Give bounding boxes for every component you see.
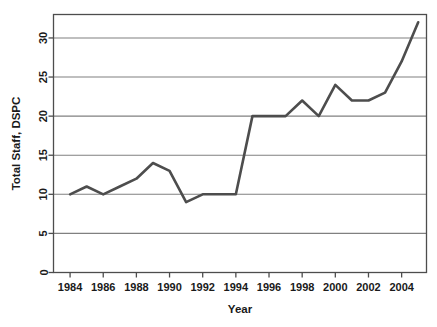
y-tick-label-15: 15 (38, 149, 50, 161)
y-tick-label-0: 0 (38, 269, 50, 275)
chart-container: 1984198619881990199219941996199820002002… (0, 0, 437, 327)
chart-background (0, 0, 437, 327)
x-tick-label-2004: 2004 (389, 281, 414, 293)
x-tick-label-2000: 2000 (323, 281, 347, 293)
x-tick-label-1996: 1996 (257, 281, 281, 293)
x-tick-label-1992: 1992 (190, 281, 214, 293)
y-tick-label-20: 20 (38, 110, 50, 122)
line-chart: 1984198619881990199219941996199820002002… (0, 0, 437, 327)
x-tick-label-1986: 1986 (91, 281, 115, 293)
x-tick-label-1994: 1994 (224, 281, 249, 293)
x-tick-label-1988: 1988 (124, 281, 148, 293)
x-tick-label-1998: 1998 (290, 281, 314, 293)
x-tick-label-2002: 2002 (356, 281, 380, 293)
y-tick-label-10: 10 (38, 188, 50, 200)
y-tick-label-5: 5 (38, 230, 50, 236)
x-axis-tick-labels: 1984198619881990199219941996199820002002… (58, 281, 415, 293)
x-axis-title: Year (228, 303, 253, 315)
y-tick-label-25: 25 (38, 71, 50, 83)
x-tick-label-1984: 1984 (58, 281, 83, 293)
y-axis-title: Total Staff, DSPC (10, 97, 22, 191)
y-tick-label-30: 30 (38, 32, 50, 44)
x-tick-label-1990: 1990 (157, 281, 181, 293)
